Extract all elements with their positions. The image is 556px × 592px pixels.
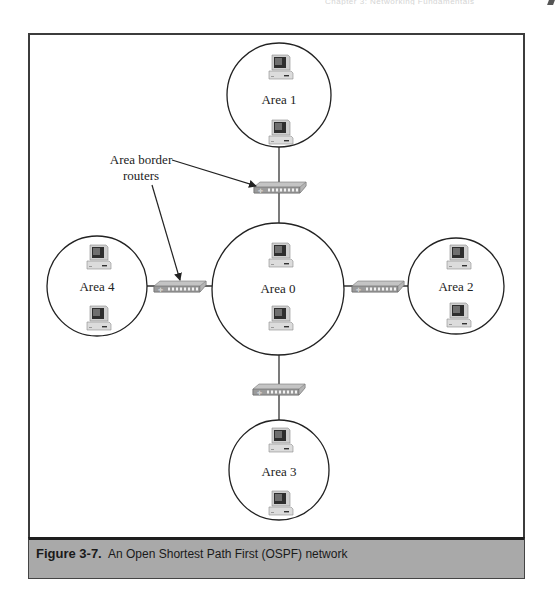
router-icon-area4-area0 — [154, 281, 206, 293]
computer-icon — [87, 245, 111, 269]
caption-label: Figure 3-7. — [36, 546, 106, 561]
computer-icon — [269, 306, 293, 330]
computer-icon — [269, 243, 293, 267]
area-3-label: Area 3 — [261, 464, 296, 479]
area-4-circle: Area 4 — [47, 236, 147, 336]
callout-line2: routers — [123, 168, 159, 183]
area-2-circle: Area 2 — [408, 238, 504, 334]
figure-caption: Figure 3-7. An Open Shortest Path First … — [28, 537, 525, 579]
router-icon-area0-area3 — [253, 384, 305, 396]
callout-line1: Area border — [110, 152, 173, 167]
area-4-label: Area 4 — [79, 279, 115, 294]
area-1-label: Area 1 — [261, 92, 296, 107]
computer-icon — [87, 306, 111, 330]
callout-arrow-left — [152, 185, 180, 280]
area-0-circle: Area 0 — [212, 223, 344, 355]
area-2-label: Area 2 — [438, 279, 473, 294]
area-3-circle: Area 3 — [229, 420, 329, 520]
computer-icon — [269, 491, 293, 515]
computer-icon — [447, 245, 471, 269]
computer-icon — [269, 120, 293, 144]
caption-text: An Open Shortest Path First (OSPF) netwo… — [108, 546, 347, 561]
computer-icon — [269, 55, 293, 79]
ospf-diagram: ✛ Area 1 — [0, 0, 556, 592]
callout-arrow-top — [172, 160, 256, 186]
area-1-circle: Area 1 — [227, 43, 331, 147]
router-icon-area0-area2 — [352, 281, 404, 293]
area-0-label: Area 0 — [260, 281, 295, 296]
computer-icon — [447, 303, 471, 327]
computer-icon — [269, 428, 293, 452]
router-icon-area1-area0 — [254, 182, 306, 194]
